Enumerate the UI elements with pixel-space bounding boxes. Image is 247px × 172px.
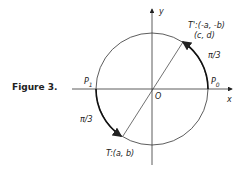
point-t-prime-coords: (c, d): [194, 31, 215, 40]
arc-label-lower-left: π/3: [80, 115, 93, 124]
arc-upper-right: [183, 42, 208, 89]
point-t-prime-label: T':(-a, -b): [188, 21, 225, 30]
y-axis-label: y: [158, 7, 164, 16]
unit-circle-diagram: y x O P0 P1 T':(-a, -b) (c, d) T:(a, b) …: [0, 0, 247, 172]
origin-label: O: [155, 92, 161, 101]
point-p1-label: P1: [84, 77, 93, 88]
point-t-label: T:(a, b): [106, 149, 134, 158]
arc-lower-left: [96, 89, 121, 136]
x-axis-label: x: [226, 95, 232, 104]
arc-label-upper-right: π/3: [208, 51, 221, 60]
point-p0-label: P0: [211, 77, 220, 88]
